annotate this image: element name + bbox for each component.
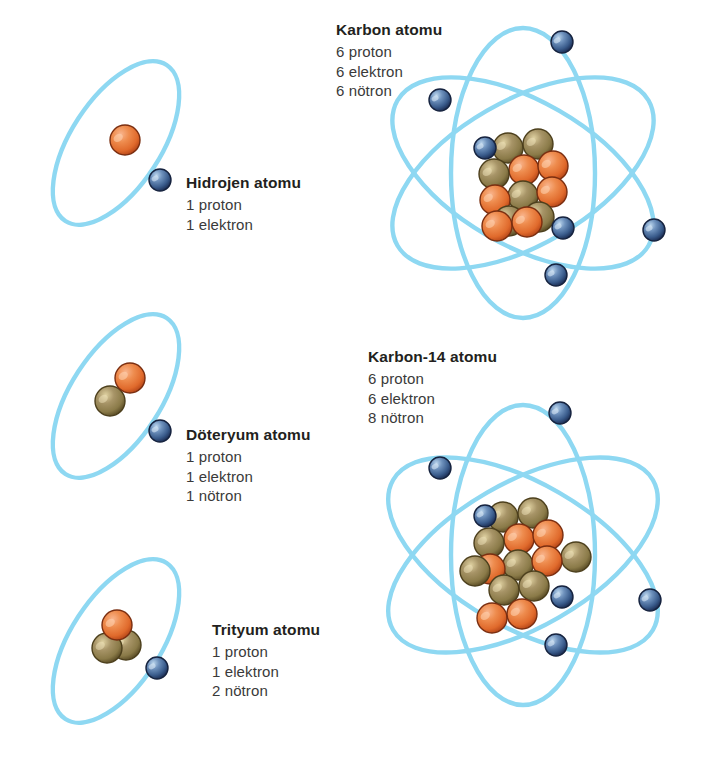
- atom-title: Karbon-14 atomu: [368, 347, 497, 367]
- atom-title: Karbon atomu: [336, 20, 442, 40]
- electron-particle: [545, 264, 567, 286]
- atom-detail-line: 6 elektron: [368, 389, 497, 409]
- atom-carbon14: [357, 402, 689, 705]
- atom-detail-line: 6 proton: [336, 42, 442, 62]
- atom-detail-line: 1 nötron: [186, 486, 311, 506]
- electron-particle: [549, 402, 571, 424]
- atom-title: Trityum atomu: [212, 620, 320, 640]
- atom-detail-line: 1 proton: [212, 642, 320, 662]
- electron-particle: [545, 634, 567, 656]
- atom-deuterium: [28, 293, 205, 498]
- electron-particle: [474, 137, 496, 159]
- atom-detail-line: 6 elektron: [336, 62, 442, 82]
- label-carbon: Karbon atomu 6 proton 6 elektron 6 nötro…: [336, 20, 442, 101]
- atom-illustrations: [0, 0, 707, 762]
- electron-particle: [551, 586, 573, 608]
- atom-detail-line: 1 proton: [186, 447, 311, 467]
- electron-particle: [474, 505, 496, 527]
- atom-detail-line: 1 elektron: [186, 215, 301, 235]
- atom-title: Hidrojen atomu: [186, 173, 301, 193]
- atom-hydrogen: [28, 40, 205, 245]
- atom-detail-line: 2 nötron: [212, 681, 320, 701]
- label-tritium: Trityum atomu 1 proton 1 elektron 2 nötr…: [212, 620, 320, 701]
- atom-detail-line: 1 elektron: [186, 467, 311, 487]
- electron-particle: [146, 657, 168, 679]
- atom-detail-line: 1 proton: [186, 195, 301, 215]
- proton-particle: [102, 610, 132, 640]
- atomic-structure-diagram: Hidrojen atomu 1 proton 1 elektron Döter…: [0, 0, 707, 762]
- label-deuterium: Döteryum atomu 1 proton 1 elektron 1 nöt…: [186, 425, 311, 506]
- atom-title: Döteryum atomu: [186, 425, 311, 445]
- electron-particle: [552, 217, 574, 239]
- neutron-particle: [95, 386, 125, 416]
- atom-detail-line: 6 proton: [368, 369, 497, 389]
- proton-particle: [110, 125, 140, 155]
- atom-detail-line: 6 nötron: [336, 81, 442, 101]
- atom-tritium: [28, 538, 205, 743]
- proton-particle: [115, 363, 145, 393]
- electron-particle: [429, 457, 451, 479]
- electron-particle: [551, 31, 573, 53]
- label-hydrogen: Hidrojen atomu 1 proton 1 elektron: [186, 173, 301, 234]
- atom-detail-line: 1 elektron: [212, 662, 320, 682]
- electron-particle: [149, 169, 171, 191]
- atom-detail-line: 8 nötron: [368, 408, 497, 428]
- electron-particle: [149, 420, 171, 442]
- electron-particle: [643, 219, 665, 241]
- electron-particle: [639, 589, 661, 611]
- label-carbon14: Karbon-14 atomu 6 proton 6 elektron 8 nö…: [368, 347, 497, 428]
